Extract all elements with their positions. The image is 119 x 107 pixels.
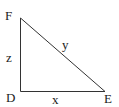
side-label-x: x: [52, 92, 59, 107]
vertex-label-d: D: [6, 90, 15, 105]
side-label-y: y: [62, 37, 69, 52]
side-fe: [21, 18, 106, 92]
side-label-z: z: [6, 50, 12, 65]
vertex-label-e: E: [104, 91, 112, 106]
vertex-label-f: F: [5, 8, 12, 23]
triangle-diagram: F D E z x y: [0, 0, 119, 107]
